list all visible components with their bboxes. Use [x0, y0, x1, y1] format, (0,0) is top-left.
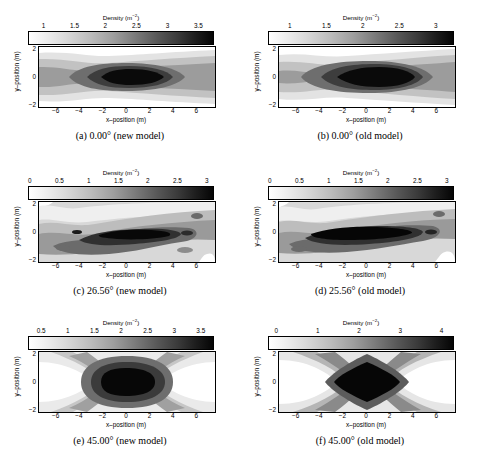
y-tick: 0 [32, 378, 36, 385]
figure-row-2: Density (m−2) 0 0.5 1 1.5 2 2.5 3 y–posi… [0, 155, 480, 305]
colorbar-ticks-f: 0 1 2 3 4 [268, 327, 454, 336]
x-tick: −4 [315, 107, 322, 114]
y-tick: −2 [269, 255, 276, 262]
x-tick: 2 [388, 412, 392, 419]
panel-caption-d: (d) 25.56° (old model) [240, 285, 480, 296]
colorbar-tick: 3.5 [196, 327, 205, 334]
x-tick: 6 [195, 262, 199, 269]
x-tick: −6 [292, 412, 299, 419]
x-tick: −6 [292, 107, 299, 114]
x-tick: −2 [99, 107, 106, 114]
x-tick: −2 [99, 412, 106, 419]
x-tick: −4 [75, 412, 82, 419]
y-axis-ticks-b: 2 0 −2 [264, 46, 276, 106]
panel-caption-c: (c) 26.56° (new model) [0, 285, 240, 296]
y-tick: −2 [29, 405, 36, 412]
colorbar-ticks-b: 1 1.5 2 2.5 3 [268, 22, 454, 31]
x-tick: −2 [339, 262, 346, 269]
x-tick: 0 [124, 412, 128, 419]
colorbar-tick: 1.5 [114, 177, 123, 184]
panel-d: Density (m−2) 0 0.5 1 1.5 2 2.5 3 y–posi… [240, 155, 480, 305]
x-axis-label-b: x–position (m) [278, 116, 454, 123]
colorbar-title-paren: ) [137, 14, 139, 21]
contour-svg-d [279, 202, 455, 262]
colorbar-tick: 2.5 [143, 327, 152, 334]
y-tick: 2 [272, 350, 276, 357]
y-axis-label-text: y–position (m) [13, 197, 20, 257]
colorbar-title-text: Density (m [343, 169, 373, 176]
x-tick: −4 [75, 107, 82, 114]
colorbar-title-paren: ) [377, 14, 379, 21]
colorbar-tick: 3 [205, 177, 209, 184]
x-axis-label-f: x–position (m) [278, 421, 454, 428]
colorbar-tick: 1 [327, 177, 331, 184]
colorbar-title-paren: ) [137, 319, 139, 326]
panel-a: Density (m−2) 1 1.5 2 2.5 3 3.5 y–positi… [0, 0, 240, 155]
colorbar-b: Density (m−2) 1 1.5 2 2.5 3 [268, 12, 454, 45]
y-tick: 0 [32, 228, 36, 235]
colorbar-a: Density (m−2) 1 1.5 2 2.5 3 3.5 [28, 12, 214, 45]
colorbar-title-b: Density (m−2) [268, 12, 454, 22]
x-tick: 0 [364, 412, 368, 419]
y-tick: −2 [269, 100, 276, 107]
colorbar-e: Density (m−2) 0.5 1 1.5 2 2.5 3 3.5 [28, 317, 214, 350]
y-tick: −2 [29, 100, 36, 107]
x-tick: 2 [388, 107, 392, 114]
density-contour-figure: Density (m−2) 1 1.5 2 2.5 3 3.5 y–positi… [0, 0, 480, 460]
colorbar-tick: 3 [166, 22, 170, 29]
colorbar-title-text: Density (m [103, 14, 133, 21]
x-tick: 2 [148, 412, 152, 419]
panel-f: Density (m−2) 0 1 2 3 4 y–position (m) 2… [240, 305, 480, 460]
panel-e: Density (m−2) 0.5 1 1.5 2 2.5 3 3.5 y–po… [0, 305, 240, 460]
colorbar-tick: 0 [268, 177, 272, 184]
colorbar-title-paren: ) [137, 169, 139, 176]
y-axis-label-text: y–position (m) [253, 42, 260, 102]
x-axis-label-a: x–position (m) [38, 116, 214, 123]
colorbar-tick: 0.5 [55, 177, 64, 184]
y-tick: 0 [272, 73, 276, 80]
x-tick: 4 [411, 412, 415, 419]
y-tick: −2 [29, 255, 36, 262]
x-tick: 4 [171, 262, 175, 269]
colorbar-tick: 2.5 [413, 177, 422, 184]
y-axis-ticks-c: 2 0 −2 [24, 201, 36, 261]
colorbar-tick: 2 [146, 177, 150, 184]
figure-row-3: Density (m−2) 0.5 1 1.5 2 2.5 3 3.5 y–po… [0, 305, 480, 460]
y-axis-label-text: y–position (m) [253, 197, 260, 257]
colorbar-title-text: Density (m [103, 319, 133, 326]
colorbar-tick: 1.5 [70, 22, 79, 29]
contour-svg-b [279, 47, 455, 107]
x-tick: 0 [364, 262, 368, 269]
x-tick: 4 [411, 262, 415, 269]
x-tick: −4 [315, 412, 322, 419]
x-tick: −4 [315, 262, 322, 269]
colorbar-tick: 2 [361, 22, 365, 29]
x-tick: 0 [124, 107, 128, 114]
colorbar-tick: 0 [28, 177, 32, 184]
colorbar-ticks-c: 0 0.5 1 1.5 2 2.5 3 [28, 177, 214, 186]
x-tick: 2 [148, 262, 152, 269]
x-axis-label-d: x–position (m) [278, 271, 454, 278]
colorbar-tick: 2 [119, 327, 123, 334]
x-tick: 4 [171, 412, 175, 419]
colorbar-title-d: Density (m−2) [268, 167, 454, 177]
colorbar-tick: 0.5 [37, 327, 46, 334]
colorbar-title-paren: ) [377, 169, 379, 176]
x-tick: 6 [435, 107, 439, 114]
contour-plot-b [278, 46, 456, 108]
panel-caption-e: (e) 45.00° (new model) [0, 435, 240, 446]
y-axis-label-text: y–position (m) [13, 347, 20, 407]
x-tick: 6 [435, 262, 439, 269]
x-axis-label-c: x–position (m) [38, 271, 214, 278]
colorbar-tick: 2.5 [173, 177, 182, 184]
colorbar-tick: 1.5 [322, 22, 331, 29]
colorbar-tick: 3 [172, 327, 176, 334]
y-axis-ticks-a: 2 0 −2 [24, 46, 36, 106]
figure-row-1: Density (m−2) 1 1.5 2 2.5 3 3.5 y–positi… [0, 0, 480, 155]
panel-caption-a: (a) 0.00° (new model) [0, 130, 240, 141]
y-tick: 2 [32, 45, 36, 52]
y-tick: −2 [269, 405, 276, 412]
colorbar-tick: 2.5 [132, 22, 141, 29]
contour-svg-a [39, 47, 215, 107]
colorbar-gradient-c [28, 186, 214, 200]
